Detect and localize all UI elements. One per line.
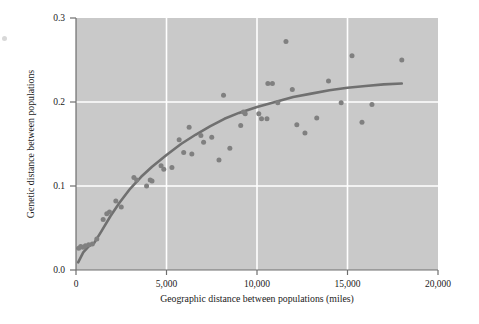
x-tick-label: 15,000 <box>334 279 360 289</box>
data-point <box>119 205 124 210</box>
data-point <box>161 167 166 172</box>
data-point <box>209 135 214 140</box>
x-axis-title: Geographic distance between populations … <box>160 293 354 305</box>
data-point <box>201 140 206 145</box>
data-point <box>177 137 182 142</box>
data-point <box>101 217 106 222</box>
scatter-plot: 05,00010,00015,00020,000 0.00.10.20.3 Ge… <box>0 0 479 324</box>
data-point <box>189 152 194 157</box>
data-point <box>259 116 264 121</box>
y-tick-label: 0.0 <box>53 265 65 275</box>
data-point <box>294 122 299 127</box>
data-point <box>314 115 319 120</box>
y-axis-ticks: 0.00.10.20.3 <box>53 13 76 275</box>
x-tick-label: 5,000 <box>156 279 178 289</box>
x-tick-label: 10,000 <box>244 279 270 289</box>
data-point <box>359 120 364 125</box>
data-point <box>369 102 374 107</box>
y-axis-title: Genetic distance between populations <box>25 70 36 218</box>
data-point <box>150 178 155 183</box>
y-tick-label: 0.3 <box>53 13 65 23</box>
data-point <box>290 87 295 92</box>
data-point <box>283 39 288 44</box>
data-point <box>264 116 269 121</box>
data-point <box>302 131 307 136</box>
data-point <box>187 125 192 130</box>
data-point <box>134 178 139 183</box>
data-point <box>221 93 226 98</box>
data-point <box>238 123 243 128</box>
data-point <box>216 157 221 162</box>
data-point <box>265 81 270 86</box>
x-tick-label: 0 <box>74 279 79 289</box>
data-point <box>339 100 344 105</box>
data-point <box>227 146 232 151</box>
x-axis-ticks: 05,00010,00015,00020,000 <box>74 270 452 289</box>
data-point <box>107 210 112 215</box>
data-point <box>181 150 186 155</box>
data-point <box>144 184 149 189</box>
figure-container: 05,00010,00015,00020,000 0.00.10.20.3 Ge… <box>0 0 479 324</box>
data-point <box>198 133 203 138</box>
data-point <box>113 199 118 204</box>
data-point <box>270 81 275 86</box>
data-point <box>90 241 95 246</box>
data-point <box>256 111 261 116</box>
x-tick-label: 20,000 <box>425 279 451 289</box>
data-point <box>169 165 174 170</box>
data-point <box>399 58 404 63</box>
data-point <box>275 100 280 105</box>
data-point <box>326 79 331 84</box>
data-point <box>94 236 99 241</box>
plot-area <box>76 18 438 270</box>
data-point <box>350 53 355 58</box>
y-tick-label: 0.2 <box>53 97 65 107</box>
data-point <box>243 111 248 116</box>
y-tick-label: 0.1 <box>53 181 65 191</box>
